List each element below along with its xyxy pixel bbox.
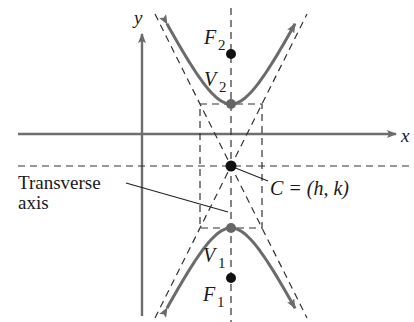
focus-bottom-point	[226, 273, 236, 283]
svg-text:F: F	[203, 26, 217, 48]
svg-text:1: 1	[218, 255, 226, 271]
focus-top-label: F 2	[203, 26, 226, 53]
focus-top-point	[226, 49, 236, 59]
svg-text:2: 2	[218, 37, 226, 53]
center-leader-line	[233, 167, 268, 181]
center-label: C = (h, k)	[270, 177, 349, 200]
transverse-axis-label-line1: Transverse	[18, 172, 101, 193]
svg-text:V: V	[204, 68, 219, 90]
transverse-axis-label-line2: axis	[18, 192, 49, 213]
svg-text:1: 1	[217, 294, 225, 310]
vertex-top-point	[226, 99, 236, 109]
vertex-top-label: V 2	[204, 68, 227, 95]
y-axis-label: y	[132, 7, 143, 28]
svg-text:F: F	[202, 283, 216, 305]
hyperbola-diagram: x y F 2 V 2 V 1 F 1 C = (h, k) Transvers…	[0, 0, 414, 322]
svg-text:V: V	[203, 244, 218, 266]
vertex-bottom-point	[226, 223, 236, 233]
vertex-bottom-label: V 1	[203, 244, 226, 271]
focus-bottom-label: F 1	[202, 283, 225, 310]
x-axis-label: x	[400, 125, 410, 146]
center-point	[226, 161, 237, 172]
svg-text:2: 2	[219, 79, 227, 95]
